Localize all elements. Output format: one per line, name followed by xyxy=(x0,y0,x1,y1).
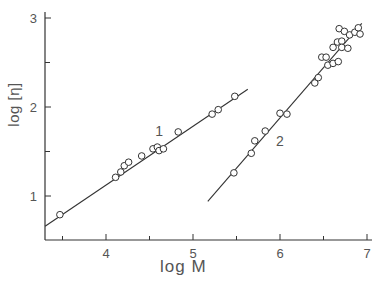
data-point-series-1 xyxy=(231,93,238,100)
data-point-series-2 xyxy=(338,44,345,51)
data-point-series-2 xyxy=(357,31,364,38)
data-point-series-1 xyxy=(112,174,119,181)
data-point-series-1 xyxy=(125,159,132,166)
data-point-series-2 xyxy=(338,38,345,45)
data-point-series-2 xyxy=(345,45,352,52)
series-label: 1 xyxy=(155,123,163,139)
x-axis-label: log M xyxy=(160,257,207,277)
data-point-series-1 xyxy=(209,111,216,118)
data-point-series-2 xyxy=(231,170,238,177)
data-point-series-2 xyxy=(248,150,255,157)
data-point-series-1 xyxy=(138,153,145,160)
data-point-series-2 xyxy=(323,54,330,61)
y-tick-label: 2 xyxy=(30,100,37,115)
series-label: 2 xyxy=(276,133,284,149)
y-tick-label: 1 xyxy=(30,189,37,204)
data-point-series-1 xyxy=(117,169,124,176)
data-point-series-2 xyxy=(315,74,322,81)
x-tick-label: 4 xyxy=(102,246,109,261)
data-point-series-2 xyxy=(355,24,362,31)
data-point-series-2 xyxy=(251,138,258,145)
data-point-series-2 xyxy=(284,111,291,118)
plot-area: 4567123 12 xyxy=(0,0,378,290)
data-point-series-2 xyxy=(262,128,269,135)
fit-lines xyxy=(45,23,362,226)
data-points xyxy=(57,24,364,218)
axes xyxy=(45,12,372,240)
data-point-series-1 xyxy=(215,106,222,113)
data-point-series-1 xyxy=(175,129,182,136)
data-point-series-1 xyxy=(160,146,167,153)
data-point-series-2 xyxy=(277,110,284,117)
x-tick-label: 7 xyxy=(363,246,370,261)
tick-labels: 4567123 xyxy=(30,11,371,261)
data-point-series-1 xyxy=(57,211,64,218)
y-tick-label: 3 xyxy=(30,11,37,26)
x-tick-label: 6 xyxy=(276,246,283,261)
y-axis-label: log [η] xyxy=(5,80,22,130)
data-point-series-2 xyxy=(335,58,342,65)
